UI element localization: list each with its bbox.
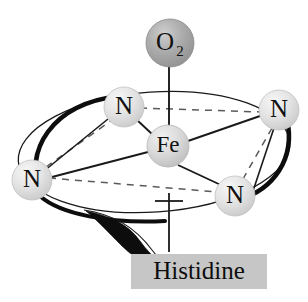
atom-nitrogen-bottom-left: N <box>12 160 52 200</box>
histidine-label-box: Histidine <box>131 254 267 289</box>
heme-diagram-canvas: O 2 Fe N N N N Histidine <box>0 0 308 302</box>
dashed-edge-top <box>140 108 262 112</box>
nitrogen-top-left-label: N <box>115 92 133 119</box>
nitrogen-bottom-right-label: N <box>226 181 244 208</box>
dashed-edge-bottom <box>49 178 218 192</box>
bond-fe-n-top-right <box>188 116 260 141</box>
nitrogen-top-right-label: N <box>270 95 288 122</box>
atom-nitrogen-top-right: N <box>259 90 299 130</box>
histidine-label: Histidine <box>153 257 245 284</box>
dioxygen-subscript: 2 <box>176 43 184 59</box>
nitrogen-bottom-left-label: N <box>23 165 41 192</box>
atom-nitrogen-top-left: N <box>104 87 144 127</box>
heme-coordination-diagram: O 2 Fe N N N N Histidine <box>0 0 308 302</box>
atom-nitrogen-bottom-right: N <box>215 176 255 216</box>
bond-fe-n-top-left <box>137 120 152 134</box>
bond-fe-n-bottom-right <box>178 165 223 186</box>
iron-label: Fe <box>157 132 180 157</box>
dioxygen-label: O <box>156 28 174 55</box>
atom-dioxygen: O 2 <box>146 19 194 67</box>
atom-iron: Fe <box>147 125 189 167</box>
dashed-edge-right <box>243 128 272 179</box>
bond-fe-n-bottom-left <box>52 152 148 177</box>
